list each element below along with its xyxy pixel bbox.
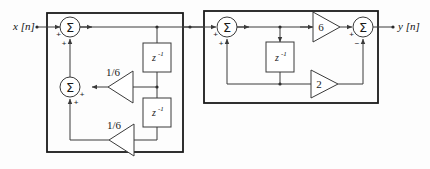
delay-2-exponent: -1	[158, 105, 164, 113]
gain-lower-label: 1/6	[107, 119, 122, 131]
adder-2-bottom-sign: +	[74, 98, 79, 107]
delay-3-exponent: -1	[281, 50, 287, 58]
delay-1-base: z	[151, 52, 156, 63]
delay-2-base: z	[151, 107, 156, 118]
adder-4-sigma: Σ	[359, 20, 367, 35]
delay-1-block	[143, 43, 171, 72]
delay-1-exponent: -1	[158, 50, 164, 58]
delay-3-block	[266, 42, 294, 72]
gain-six-label: 6	[318, 21, 324, 33]
adder-4-left-sign: +	[349, 30, 354, 39]
gain-two-label: 2	[316, 78, 322, 90]
gain-six-triangle	[313, 12, 340, 42]
output-terminal-dot	[391, 25, 394, 28]
adder-3-sigma: Σ	[223, 20, 231, 35]
output-signal-label: y [n]	[398, 20, 420, 32]
adder-2-right-sign: +	[80, 90, 85, 99]
adder-2-sigma: Σ	[66, 80, 74, 95]
adder-3-left-sign: +	[213, 30, 218, 39]
input-signal-label: x [n]	[13, 20, 35, 32]
adder-1-sigma: Σ	[66, 20, 74, 35]
diagram-canvas: Σ + + z -1 1/6 Σ + + z -1	[0, 0, 430, 169]
gain-upper-label: 1/6	[106, 66, 121, 78]
adder-1-bottom-sign: +	[62, 39, 67, 48]
block-diagram-figure: Σ + + z -1 1/6 Σ + + z -1	[0, 0, 430, 169]
delay-3-base: z	[274, 52, 279, 63]
adder-4-bottom-sign: −	[355, 39, 360, 48]
gain-two-triangle	[311, 70, 338, 98]
adder-1-left-sign: +	[56, 30, 61, 39]
delay-2-block	[143, 98, 171, 127]
adder-3-bottom-sign: +	[219, 39, 224, 48]
